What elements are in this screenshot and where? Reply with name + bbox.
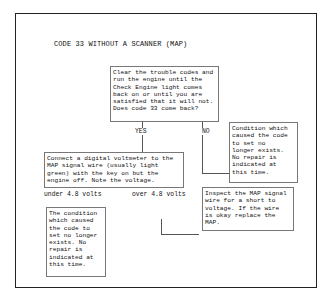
- diagram-title: CODE 33 WITHOUT A SCANNER (MAP): [54, 40, 187, 48]
- edge-label-over: over 4.8 volts: [131, 191, 187, 198]
- over-result-box: Inspect the MAP signal wire for a short …: [202, 187, 294, 231]
- voltmeter-step-box: Connect a digital voltmeter to the MAP s…: [44, 152, 184, 188]
- connector-over-v: [161, 219, 162, 234]
- edge-label-yes: YES: [134, 128, 148, 135]
- under-result-box: The condition which caused the code to s…: [46, 207, 106, 277]
- edge-label-no: NO: [201, 128, 211, 135]
- edge-label-under: under 4.8 volts: [43, 191, 103, 198]
- connector-over-h: [161, 234, 199, 235]
- start-step-box: Clear the trouble codes and run the engi…: [110, 66, 219, 122]
- no-result-box: Condition which caused the code to set n…: [229, 122, 298, 183]
- connector-no-v: [202, 115, 203, 174]
- connector-no-h: [202, 173, 230, 174]
